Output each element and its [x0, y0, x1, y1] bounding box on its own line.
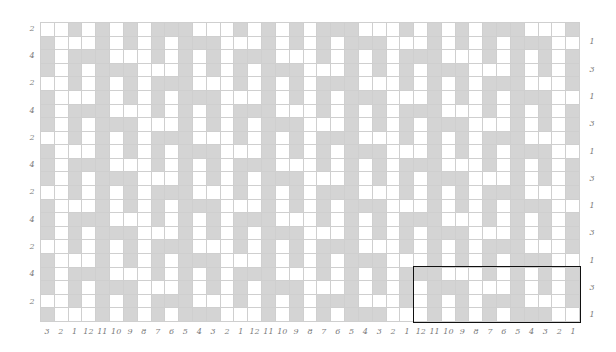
chart-cell [428, 213, 442, 227]
chart-cell [428, 172, 442, 186]
chart-cell [400, 186, 414, 200]
row-label-right: 3 [584, 119, 600, 129]
chart-cell [469, 145, 483, 159]
chart-cell [290, 50, 304, 64]
chart-cell [414, 172, 428, 186]
chart-cell [456, 23, 470, 37]
chart-cell [138, 64, 152, 78]
chart-cell [138, 200, 152, 214]
chart-cell [41, 268, 55, 282]
row-label-right: 1 [584, 147, 600, 157]
chart-cell [566, 105, 580, 119]
chart-cell [248, 240, 262, 254]
chart-cell [456, 308, 470, 322]
chart-cell [165, 50, 179, 64]
chart-cell [248, 213, 262, 227]
chart-cell [317, 308, 331, 322]
chart-cell [69, 50, 83, 64]
chart-cell [566, 159, 580, 173]
chart-cell [373, 240, 387, 254]
chart-cell [359, 64, 373, 78]
chart-cell [234, 186, 248, 200]
chart-cell [442, 240, 456, 254]
chart-cell [152, 240, 166, 254]
chart-cell [69, 37, 83, 51]
chart-cell [96, 91, 110, 105]
chart-cell [276, 186, 290, 200]
chart-cell [41, 159, 55, 173]
chart-cell [152, 132, 166, 146]
chart-cell [456, 91, 470, 105]
chart-cell [469, 118, 483, 132]
chart-cell [290, 132, 304, 146]
chart-cell [193, 159, 207, 173]
chart-cell [110, 172, 124, 186]
chart-cell [331, 281, 345, 295]
chart-cell [41, 308, 55, 322]
chart-cell [96, 50, 110, 64]
chart-cell [96, 23, 110, 37]
chart-cell [165, 308, 179, 322]
chart-cell [82, 254, 96, 268]
chart-cell [345, 132, 359, 146]
chart-cell [152, 172, 166, 186]
chart-cell [207, 37, 221, 51]
chart-cell [566, 91, 580, 105]
chart-cell [497, 91, 511, 105]
chart-cell [373, 308, 387, 322]
chart-cell [179, 200, 193, 214]
chart-cell [152, 308, 166, 322]
chart-cell [234, 254, 248, 268]
chart-cell [248, 37, 262, 51]
chart-cell [387, 91, 401, 105]
chart-cell [248, 145, 262, 159]
chart-cell [124, 308, 138, 322]
chart-cell [497, 64, 511, 78]
chart-cell [304, 240, 318, 254]
chart-cell [55, 145, 69, 159]
chart-cell [373, 213, 387, 227]
chart-cell [276, 213, 290, 227]
chart-cell [304, 254, 318, 268]
chart-cell [373, 268, 387, 282]
chart-cell [525, 64, 539, 78]
chart-cell [304, 281, 318, 295]
chart-cell [387, 118, 401, 132]
chart-cell [152, 50, 166, 64]
chart-cell [207, 240, 221, 254]
chart-cell [96, 77, 110, 91]
chart-cell [276, 254, 290, 268]
chart-cell [483, 268, 497, 282]
chart-cell [234, 295, 248, 309]
chart-cell [41, 172, 55, 186]
chart-cell [331, 145, 345, 159]
chart-cell [552, 159, 566, 173]
chart-cell [511, 186, 525, 200]
chart-cell [193, 186, 207, 200]
chart-cell [345, 159, 359, 173]
chart-cell [82, 172, 96, 186]
chart-cell [304, 132, 318, 146]
chart-cell [428, 50, 442, 64]
chart-cell [414, 186, 428, 200]
chart-cell [428, 281, 442, 295]
chart-cell [387, 50, 401, 64]
row-label-right: 1 [584, 256, 600, 266]
chart-cell [221, 50, 235, 64]
chart-cell [428, 37, 442, 51]
chart-cell [317, 64, 331, 78]
chart-cell [456, 240, 470, 254]
chart-cell [207, 172, 221, 186]
row-label-left: 2 [24, 297, 40, 307]
chart-cell [290, 159, 304, 173]
chart-cell [96, 145, 110, 159]
chart-cell [442, 91, 456, 105]
chart-cell [96, 281, 110, 295]
chart-cell [331, 200, 345, 214]
chart-cell [483, 64, 497, 78]
chart-cell [414, 50, 428, 64]
chart-cell [207, 200, 221, 214]
chart-cell [442, 213, 456, 227]
chart-cell [248, 159, 262, 173]
chart-cell [359, 200, 373, 214]
